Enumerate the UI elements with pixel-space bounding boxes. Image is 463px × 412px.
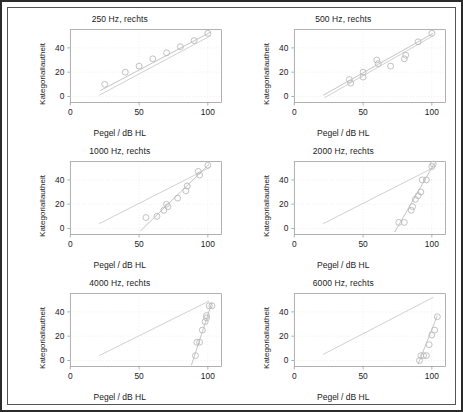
y-tick-label: 0 xyxy=(60,355,65,365)
x-tick-label: 100 xyxy=(424,107,438,117)
chart-panel-250hz: 250 Hz, rechtsKategoriallautheitPegel / … xyxy=(8,8,232,140)
chart-panel-4000hz: 4000 Hz, rechtsKategoriallautheitPegel /… xyxy=(8,272,232,404)
x-tick-label: 100 xyxy=(201,371,215,381)
chart-panel-500hz: 500 Hz, rechtsKategoriallautheitPegel / … xyxy=(232,8,456,140)
plot-area: 05010002040 xyxy=(232,140,456,272)
y-tick-label: 0 xyxy=(60,223,65,233)
y-tick-label: 0 xyxy=(283,91,288,101)
x-tick-label: 0 xyxy=(68,239,73,249)
x-tick-label: 0 xyxy=(68,371,73,381)
y-tick-label: 40 xyxy=(55,175,65,185)
figure-container: 250 Hz, rechtsKategoriallautheitPegel / … xyxy=(0,0,463,412)
x-tick-label: 0 xyxy=(291,107,296,117)
chart-panel-1000hz: 1000 Hz, rechtsKategoriallautheitPegel /… xyxy=(8,140,232,272)
y-tick-label: 0 xyxy=(283,223,288,233)
y-tick-label: 20 xyxy=(279,199,289,209)
plot-area: 05010002040 xyxy=(8,8,232,140)
x-tick-label: 0 xyxy=(68,107,73,117)
y-tick-label: 20 xyxy=(279,331,289,341)
plot-area: 05010002040 xyxy=(8,272,232,404)
y-tick-label: 20 xyxy=(55,199,65,209)
y-tick-label: 40 xyxy=(55,307,65,317)
y-tick-label: 20 xyxy=(55,331,65,341)
x-tick-label: 100 xyxy=(424,239,438,249)
y-tick-label: 40 xyxy=(279,307,289,317)
x-tick-label: 100 xyxy=(424,371,438,381)
x-tick-label: 100 xyxy=(201,239,215,249)
y-tick-label: 0 xyxy=(60,91,65,101)
panel-grid: 250 Hz, rechtsKategoriallautheitPegel / … xyxy=(8,8,455,404)
x-tick-label: 100 xyxy=(201,107,215,117)
y-tick-label: 40 xyxy=(55,43,65,53)
y-tick-label: 40 xyxy=(279,175,289,185)
figure-inner-frame: 250 Hz, rechtsKategoriallautheitPegel / … xyxy=(7,7,456,405)
y-tick-label: 0 xyxy=(283,355,288,365)
x-tick-label: 50 xyxy=(134,107,144,117)
y-tick-label: 20 xyxy=(55,67,65,77)
chart-panel-2000hz: 2000 Hz, rechtsKategoriallautheitPegel /… xyxy=(232,140,456,272)
x-tick-label: 50 xyxy=(358,239,368,249)
x-tick-label: 50 xyxy=(134,371,144,381)
plot-area: 05010002040 xyxy=(8,140,232,272)
y-tick-label: 40 xyxy=(279,43,289,53)
chart-panel-6000hz: 6000 Hz, rechtsKategoriallautheitPegel /… xyxy=(232,272,456,404)
x-tick-label: 0 xyxy=(291,239,296,249)
plot-area: 05010002040 xyxy=(232,272,456,404)
x-tick-label: 0 xyxy=(291,371,296,381)
x-tick-label: 50 xyxy=(358,107,368,117)
x-tick-label: 50 xyxy=(358,371,368,381)
x-tick-label: 50 xyxy=(134,239,144,249)
y-tick-label: 20 xyxy=(279,67,289,77)
plot-area: 05010002040 xyxy=(232,8,456,140)
